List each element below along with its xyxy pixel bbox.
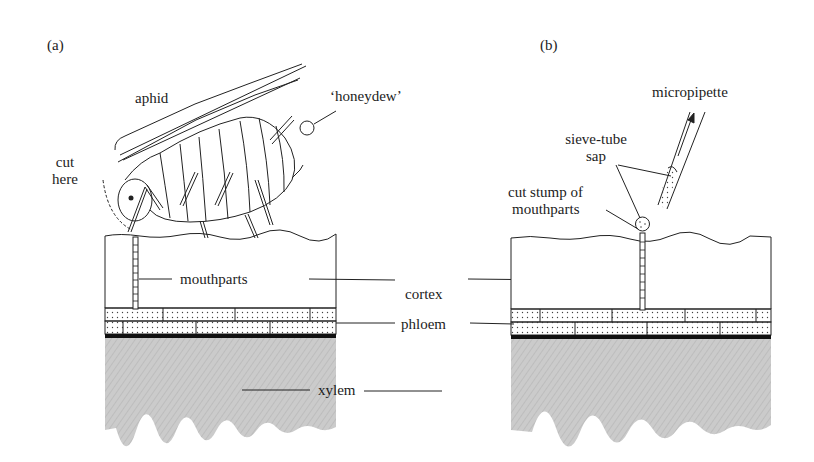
phloem-b	[511, 309, 771, 335]
panel-a-label: (a)	[47, 37, 64, 53]
xylem-a	[105, 338, 336, 446]
micropipette-label: micropipette	[652, 84, 728, 100]
mouthparts-stylet-a	[133, 237, 138, 309]
mouthparts-label: mouthparts	[180, 271, 248, 287]
aphid-label: aphid	[135, 90, 168, 106]
phloem-label: phloem	[401, 316, 446, 332]
cut-here-label-line2: here	[43, 171, 87, 187]
sieve-tube-sap-label-line1: sieve-tube	[552, 131, 640, 147]
cut-stump-label-line1: cut stump of	[508, 184, 583, 200]
sieve-tube-sap-label-line2: sap	[552, 148, 640, 164]
phloem-a	[105, 308, 336, 334]
stem-section-a	[105, 230, 336, 446]
honeydew-label: ‘honeydew’	[330, 88, 402, 104]
cut-here-label-line1: cut	[43, 154, 87, 170]
aphid-sap-diagram	[0, 0, 814, 462]
cortex-a	[105, 230, 336, 308]
panel-b-label: (b)	[540, 37, 558, 53]
xylem-label: xylem	[318, 382, 356, 398]
micropipette-drawing	[658, 112, 705, 209]
cortex-label: cortex	[405, 286, 442, 302]
stem-section-b	[511, 112, 771, 447]
cut-stump-label-line2: mouthparts	[512, 201, 580, 217]
xylem-b	[511, 339, 771, 447]
